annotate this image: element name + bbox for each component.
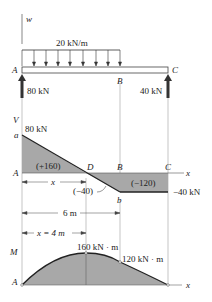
shear-point-A: A: [12, 168, 19, 178]
moment-point-A: A: [11, 277, 18, 287]
reaction-C-arrow: [164, 74, 172, 98]
distributed-load-arrows: [22, 50, 122, 66]
V-axis-label: V: [13, 115, 20, 125]
beam: [22, 67, 168, 73]
load-diagram: w 20 kN/m A C B 80 kN 40 kN: [11, 14, 179, 98]
M-axis-label: M: [9, 247, 18, 257]
point-a-label: a: [14, 130, 19, 140]
shear-end-value: −40 kN: [173, 187, 201, 197]
point-A-label: A: [11, 65, 18, 75]
shear-start-value: 80 kN: [25, 124, 48, 134]
point-D-label: D: [86, 162, 94, 172]
negative-shear-area: [86, 173, 168, 192]
shear-point-C: C: [165, 162, 172, 172]
w-axis-label: w: [26, 14, 32, 24]
moment-at-B-label: 120 kN · m: [122, 254, 163, 264]
leader-line: [97, 186, 106, 192]
moment-x-label: x: [185, 280, 190, 290]
point-C-label: C: [172, 65, 179, 75]
reaction-A-arrow: [18, 74, 26, 98]
x-eq-4m-label: x = 4 m: [36, 228, 65, 238]
distributed-load-label: 20 kN/m: [56, 38, 88, 48]
positive-area-label: (+160): [36, 161, 61, 171]
shear-diagram: V x a 80 kN A D B C b −40 kN (+160) (−40…: [12, 115, 201, 205]
max-moment-label: 160 kN · m: [77, 242, 118, 252]
shear-x-label: x: [185, 168, 190, 178]
span-6m-label: 6 m: [63, 208, 77, 218]
moment-diagram: M x A 160 kN · m 120 kN · m: [9, 242, 190, 290]
reaction-C-label: 40 kN: [140, 86, 163, 96]
shear-point-B: B: [117, 162, 123, 172]
negative-large-area-label: (−120): [131, 178, 156, 188]
beam-diagram: w 20 kN/m A C B 80 kN 40 kN: [0, 0, 212, 302]
reaction-A-label: 80 kN: [27, 86, 50, 96]
point-b-label: b: [117, 195, 122, 205]
x-dimension-label: x: [50, 177, 55, 187]
dimensions: 6 m x = 4 m: [22, 208, 120, 238]
negative-small-area-label: (−40): [73, 186, 93, 196]
